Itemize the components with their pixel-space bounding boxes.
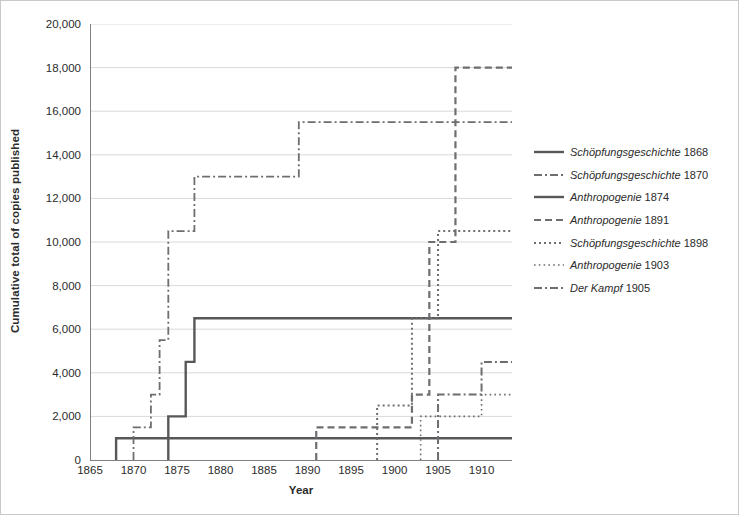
grid-lines: [90, 24, 512, 416]
y-tick-label: 4,000: [52, 367, 81, 378]
legend-line-swatch: [534, 191, 564, 203]
y-tick-label: 10,000: [46, 237, 81, 248]
x-tick-label: 1880: [208, 464, 234, 476]
legend-work-title: Anthropogenie: [570, 259, 642, 271]
legend-work-title: Der Kampf: [570, 282, 623, 294]
y-tick-label: 18,000: [46, 62, 81, 73]
y-tick-label: 16,000: [46, 106, 81, 117]
legend-item[interactable]: Schöpfungsgeschichte 1870: [534, 164, 734, 187]
legend-line-swatch: [534, 259, 564, 271]
legend-item-label: Anthropogenie 1891: [570, 214, 669, 226]
chart-legend: Schöpfungsgeschichte 1868Schöpfungsgesch…: [534, 141, 734, 299]
legend-item-label: Der Kampf 1905: [570, 282, 650, 294]
legend-item-label: Schöpfungsgeschichte 1870: [570, 169, 708, 181]
series-line-2: [134, 122, 512, 460]
legend-item[interactable]: Schöpfungsgeschichte 1898: [534, 231, 734, 254]
legend-work-title: Anthropogenie: [570, 214, 642, 226]
x-axis-tick-labels: 1865187018751880188518901895190019051910: [1, 464, 739, 486]
x-tick-label: 1885: [251, 464, 277, 476]
y-tick-label: 14,000: [46, 149, 81, 160]
plot-area: [90, 24, 512, 460]
legend-item-label: Schöpfungsgeschichte 1898: [570, 237, 708, 249]
legend-work-year: 1870: [681, 169, 709, 181]
legend-line-swatch: [534, 146, 564, 158]
data-series-group: [116, 68, 512, 460]
legend-work-title: Anthropogenie: [570, 191, 642, 203]
legend-work-title: Schöpfungsgeschichte: [570, 146, 681, 158]
x-tick-label: 1900: [382, 464, 408, 476]
y-axis-title-text: Cumulative total of copies published: [9, 129, 21, 333]
x-axis-title: Year: [90, 484, 512, 496]
y-axis-tick-labels: 02,0004,0006,0008,00010,00012,00014,0001…: [23, 1, 85, 515]
x-tick-label: 1905: [425, 464, 451, 476]
x-tick-label: 1865: [77, 464, 103, 476]
legend-item[interactable]: Anthropogenie 1891: [534, 209, 734, 232]
x-tick-label: 1870: [121, 464, 147, 476]
y-tick-label: 6,000: [52, 324, 81, 335]
legend-line-swatch: [534, 237, 564, 249]
series-line-7: [438, 362, 512, 460]
series-line-6: [421, 395, 512, 460]
legend-item-label: Anthropogenie 1903: [570, 259, 669, 271]
x-tick-label: 1895: [338, 464, 364, 476]
legend-item[interactable]: Anthropogenie 1903: [534, 254, 734, 277]
series-line-4: [316, 68, 512, 460]
x-tick-label: 1890: [295, 464, 321, 476]
series-line-5: [377, 231, 512, 460]
chart-figure: Cumulative total of copies published 02,…: [0, 0, 739, 515]
x-tick-label: 1910: [469, 464, 495, 476]
legend-work-year: 1874: [642, 191, 670, 203]
legend-line-swatch: [534, 214, 564, 226]
legend-work-year: 1903: [642, 259, 670, 271]
legend-item[interactable]: Der Kampf 1905: [534, 277, 734, 300]
y-tick-label: 8,000: [52, 280, 81, 291]
legend-work-year: 1868: [681, 146, 709, 158]
legend-item[interactable]: Schöpfungsgeschichte 1868: [534, 141, 734, 164]
legend-line-swatch: [534, 282, 564, 294]
legend-work-year: 1905: [623, 282, 651, 294]
plot-svg: [90, 24, 513, 461]
legend-item[interactable]: Anthropogenie 1874: [534, 186, 734, 209]
legend-item-label: Anthropogenie 1874: [570, 191, 669, 203]
y-tick-label: 2,000: [52, 411, 81, 422]
legend-work-year: 1898: [681, 237, 709, 249]
x-tick-label: 1875: [164, 464, 190, 476]
series-line-1: [116, 438, 512, 460]
legend-line-swatch: [534, 169, 564, 181]
y-tick-label: 12,000: [46, 193, 81, 204]
legend-work-title: Schöpfungsgeschichte: [570, 237, 681, 249]
y-tick-label: 20,000: [46, 19, 81, 30]
legend-item-label: Schöpfungsgeschichte 1868: [570, 146, 708, 158]
legend-work-year: 1891: [642, 214, 670, 226]
legend-work-title: Schöpfungsgeschichte: [570, 169, 681, 181]
